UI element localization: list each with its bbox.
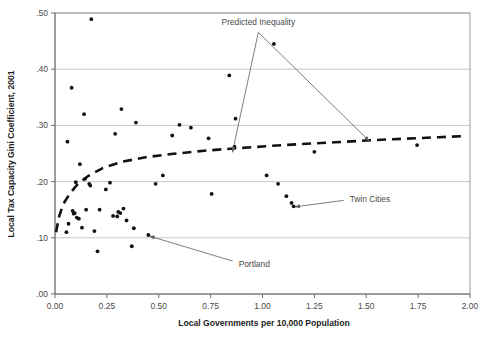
data-point (118, 211, 122, 215)
data-point (77, 217, 81, 221)
data-point (234, 117, 238, 121)
data-point (84, 208, 88, 212)
y-tick-label-1: .10 (36, 233, 48, 243)
data-point (132, 226, 136, 230)
data-point (415, 143, 419, 147)
y-tick-label-0: .00 (36, 289, 48, 299)
annotation-label-predicted-inequality: Predicted Inequality (222, 17, 296, 27)
annotation-leader-0-0 (232, 32, 258, 152)
gridlines (55, 13, 470, 238)
data-point (276, 182, 280, 186)
data-point (272, 42, 276, 46)
data-point (111, 214, 115, 218)
y-tick-label-5: .50 (36, 8, 48, 18)
x-tick-label-5: 1.25 (306, 301, 323, 311)
data-point (290, 201, 294, 205)
data-point (98, 208, 102, 212)
x-axis-ticks: 0.000.250.500.751.001.251.501.752.00 (47, 294, 479, 311)
scatter-points (65, 17, 419, 253)
data-point (170, 134, 174, 138)
data-point (73, 211, 77, 215)
data-point (207, 136, 211, 140)
data-point (96, 249, 100, 253)
data-point (66, 140, 70, 144)
y-axis-title: Local Tax Capacity Gini Coefficient, 200… (6, 70, 16, 237)
annotation-leader-1-0 (295, 200, 344, 206)
data-point (80, 226, 84, 230)
data-point (189, 126, 193, 130)
data-point (284, 194, 288, 198)
data-point (67, 222, 71, 226)
x-tick-label-8: 2.00 (462, 301, 479, 311)
data-point (82, 112, 86, 116)
x-tick-label-6: 1.50 (358, 301, 375, 311)
data-point (210, 192, 214, 196)
data-point (134, 121, 138, 125)
data-point (65, 230, 69, 234)
data-point (120, 107, 124, 111)
y-axis-ticks: .00.10.20.30.40.50 (36, 8, 55, 299)
chart-figure: 0.000.250.500.751.001.251.501.752.00 .00… (0, 0, 488, 338)
data-point (113, 132, 117, 136)
plot-frame (55, 13, 470, 294)
x-tick-label-0: 0.00 (47, 301, 64, 311)
data-point (178, 123, 182, 127)
y-tick-label-3: .30 (36, 120, 48, 130)
x-tick-label-2: 0.50 (150, 301, 167, 311)
x-tick-label-3: 0.75 (202, 301, 219, 311)
y-tick-label-4: .40 (36, 64, 48, 74)
x-tick-label-1: 0.25 (99, 301, 116, 311)
scatter-plot: 0.000.250.500.751.001.251.501.752.00 .00… (0, 0, 488, 338)
annotations: Predicted InequalityTwin CitiesPortland (149, 17, 390, 269)
plot-border (55, 13, 470, 294)
data-point (78, 162, 82, 166)
data-point (154, 182, 158, 186)
data-point (115, 215, 119, 219)
data-point (104, 188, 108, 192)
x-tick-label-7: 1.75 (410, 301, 427, 311)
data-point (74, 180, 78, 184)
data-point (83, 177, 87, 181)
x-tick-label-4: 1.00 (254, 301, 271, 311)
y-tick-label-2: .20 (36, 177, 48, 187)
data-point (108, 181, 112, 185)
annotation-label-portland: Portland (239, 259, 271, 269)
data-point (312, 150, 316, 154)
data-point (93, 229, 97, 233)
data-point (161, 174, 165, 178)
annotation-label-twin-cities: Twin Cities (350, 194, 391, 204)
data-point (89, 17, 93, 21)
x-axis-title: Local Governments per 10,000 Population (178, 318, 349, 328)
data-point (227, 73, 231, 77)
data-point (122, 207, 126, 211)
data-point (292, 204, 296, 208)
annotation-leader-0-1 (258, 32, 369, 141)
data-point (125, 218, 129, 222)
annotation-leader-2-0 (149, 236, 232, 261)
data-point (88, 184, 92, 188)
data-point (130, 244, 134, 248)
data-point (265, 174, 269, 178)
data-point (70, 86, 74, 90)
